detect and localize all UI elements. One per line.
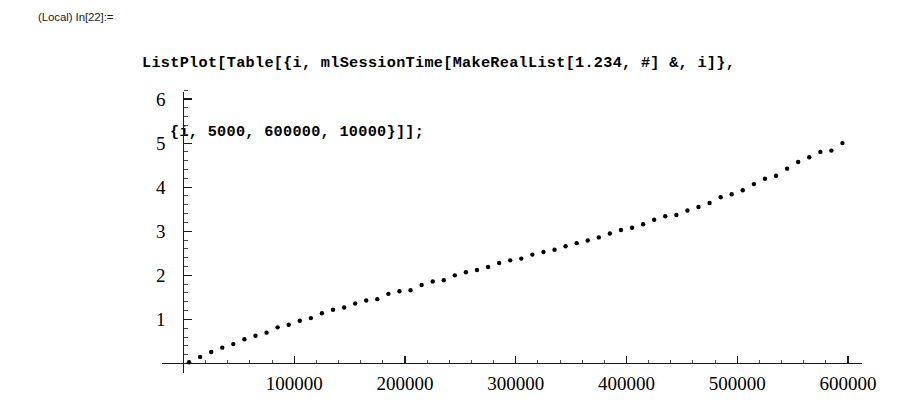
data-point — [253, 334, 257, 338]
data-point — [386, 292, 390, 296]
data-point — [309, 316, 313, 320]
data-point — [331, 308, 335, 312]
y-axis-major-ticks — [184, 99, 192, 319]
data-point — [464, 270, 468, 274]
data-point — [508, 258, 512, 262]
data-point — [818, 150, 822, 154]
data-point — [707, 201, 711, 205]
data-point — [442, 278, 446, 282]
x-tick-label: 600000 — [820, 373, 877, 394]
data-point — [419, 283, 423, 287]
data-point — [619, 228, 623, 232]
data-point — [641, 222, 645, 226]
data-point — [497, 261, 501, 265]
data-point — [763, 177, 767, 181]
data-point — [187, 360, 191, 364]
data-point — [209, 350, 213, 354]
data-point — [752, 182, 756, 186]
input-prompt-label: (Local) In[22]:= — [38, 11, 113, 23]
data-point — [530, 252, 534, 256]
data-point — [275, 325, 279, 329]
x-axis-tick-labels: 100000200000300000400000500000600000 — [266, 373, 877, 394]
data-point — [453, 273, 457, 277]
x-axis-major-ticks — [294, 356, 848, 364]
data-point — [674, 213, 678, 217]
data-point — [586, 238, 590, 242]
y-tick-label: 5 — [156, 133, 166, 154]
data-point — [718, 195, 722, 199]
data-point — [198, 355, 202, 359]
y-axis-minor-ticks — [184, 90, 188, 355]
data-point — [298, 319, 302, 323]
data-point — [430, 279, 434, 283]
listplot-scatter-chart: 123456 100000200000300000400000500000600… — [0, 60, 924, 404]
data-point — [652, 218, 656, 222]
data-point — [840, 141, 844, 145]
y-tick-label: 1 — [156, 309, 166, 330]
data-point — [408, 288, 412, 292]
data-point — [774, 174, 778, 178]
data-point — [342, 305, 346, 309]
data-point — [696, 205, 700, 209]
data-point — [785, 166, 789, 170]
y-tick-label: 2 — [156, 265, 166, 286]
data-point — [364, 298, 368, 302]
data-point — [829, 148, 833, 152]
data-point — [353, 301, 357, 305]
y-tick-label: 3 — [156, 221, 166, 242]
data-point — [231, 342, 235, 346]
data-point — [741, 188, 745, 192]
x-tick-label: 300000 — [487, 373, 544, 394]
data-point — [287, 323, 291, 327]
notebook-input-cell[interactable]: (Local) In[22]:= ListPlot[Table[{i, mlSe… — [0, 0, 924, 60]
data-point — [730, 192, 734, 196]
y-tick-label: 6 — [156, 89, 166, 110]
data-point — [486, 265, 490, 269]
data-point — [807, 155, 811, 159]
data-point — [630, 226, 634, 230]
y-axis-tick-labels: 123456 — [156, 89, 166, 330]
data-point — [563, 244, 567, 248]
data-point — [375, 297, 379, 301]
data-point — [597, 235, 601, 239]
data-point — [320, 311, 324, 315]
data-point — [796, 160, 800, 164]
data-point — [397, 289, 401, 293]
notebook-graphics-cell[interactable]: 123456 100000200000300000400000500000600… — [0, 60, 924, 404]
x-tick-label: 100000 — [266, 373, 323, 394]
x-tick-label: 200000 — [377, 373, 434, 394]
x-tick-label: 400000 — [598, 373, 655, 394]
y-tick-label: 4 — [156, 177, 166, 198]
data-point — [475, 268, 479, 272]
data-point — [220, 345, 224, 349]
data-point — [574, 241, 578, 245]
data-point — [519, 256, 523, 260]
data-point — [663, 214, 667, 218]
data-point — [264, 330, 268, 334]
scatter-data-points — [187, 141, 845, 364]
x-tick-label: 500000 — [709, 373, 766, 394]
data-point — [242, 337, 246, 341]
data-point — [541, 250, 545, 254]
data-point — [552, 248, 556, 252]
data-point — [608, 231, 612, 235]
data-point — [685, 208, 689, 212]
